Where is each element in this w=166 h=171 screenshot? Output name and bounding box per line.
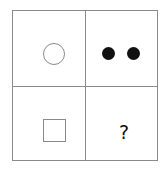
filled-dot-icon bbox=[102, 47, 115, 60]
puzzle-grid: ? bbox=[12, 10, 158, 161]
horizontal-divider bbox=[13, 86, 157, 87]
square-outline-icon bbox=[43, 119, 66, 142]
filled-dot-icon bbox=[127, 47, 140, 60]
question-mark: ? bbox=[115, 121, 133, 143]
circle-outline-icon bbox=[43, 43, 65, 65]
